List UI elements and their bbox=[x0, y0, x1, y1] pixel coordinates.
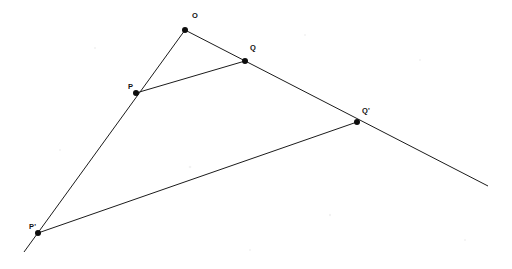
geometry-figure: O Q P Q' P' bbox=[0, 0, 512, 269]
label-point-qprime: Q' bbox=[362, 106, 370, 115]
label-point-p: P bbox=[128, 82, 133, 91]
point-p[interactable] bbox=[133, 90, 139, 96]
label-point-q: Q bbox=[250, 43, 256, 52]
label-point-pprime: P' bbox=[29, 222, 36, 231]
point-q[interactable] bbox=[242, 58, 248, 64]
point-o[interactable] bbox=[182, 27, 188, 33]
label-point-o: O bbox=[192, 11, 198, 20]
diagram-canvas: O Q P Q' P' bbox=[0, 0, 512, 269]
point-qprime[interactable] bbox=[354, 119, 360, 125]
figure-background bbox=[0, 0, 512, 269]
